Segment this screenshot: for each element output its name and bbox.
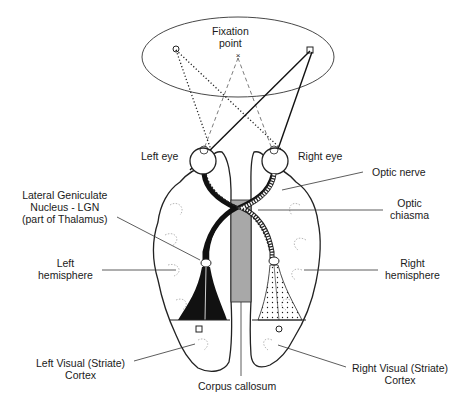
label-lgn-line1: Lateral Geniculate <box>22 189 108 201</box>
label-left-hemisphere-line2: hemisphere <box>38 269 93 281</box>
label-left-visual-cortex: Left Visual (Striate) Cortex <box>36 357 125 381</box>
label-optic-chiasma-line2: chiasma <box>390 209 429 221</box>
label-right-visual-cortex: Right Visual (Striate) Cortex <box>352 362 448 386</box>
leader-right-visual-cortex <box>278 345 346 367</box>
label-fixation-line2: point <box>212 37 249 49</box>
label-left-visual-cortex-line1: Left Visual (Striate) <box>36 357 125 369</box>
left-cortex-square-icon <box>196 326 202 332</box>
ray-left-object-to-left-eye <box>176 50 211 150</box>
left-eye-shape <box>190 148 216 174</box>
label-optic-chiasma-line1: Optic <box>390 197 429 209</box>
label-lgn-line3: (part of Thalamus) <box>22 213 108 225</box>
label-left-hemisphere: Left hemisphere <box>38 257 93 281</box>
left-hemisphere-shape <box>154 152 232 372</box>
right-eye-shape <box>262 148 288 174</box>
label-left-eye: Left eye <box>141 150 178 162</box>
label-fixation-point: Fixation point <box>212 25 249 49</box>
label-fixation-line1: Fixation <box>212 25 249 37</box>
label-right-visual-cortex-line1: Right Visual (Striate) <box>352 362 448 374</box>
label-right-hemisphere: Right hemisphere <box>385 257 440 281</box>
label-lgn-line2: Nucleus - LGN <box>22 201 108 213</box>
label-optic-nerve: Optic nerve <box>372 166 426 178</box>
label-left-hemisphere-line1: Left <box>38 257 93 269</box>
label-right-eye: Right eye <box>298 150 342 162</box>
label-right-hemisphere-line2: hemisphere <box>385 269 440 281</box>
right-lgn-node <box>269 257 279 265</box>
corpus-callosum-shape <box>231 200 251 302</box>
left-lgn-node <box>201 259 211 267</box>
label-right-hemisphere-line1: Right <box>385 257 440 269</box>
ray-left-object-to-right-eye <box>176 50 282 150</box>
label-right-visual-cortex-line2: Cortex <box>352 374 448 386</box>
label-corpus-callosum: Corpus callosum <box>198 380 276 392</box>
label-left-visual-cortex-line2: Cortex <box>36 369 125 381</box>
label-optic-chiasma: Optic chiasma <box>390 197 429 221</box>
right-cortex-circle-icon <box>276 326 282 332</box>
label-lgn: Lateral Geniculate Nucleus - LGN (part o… <box>22 189 108 225</box>
